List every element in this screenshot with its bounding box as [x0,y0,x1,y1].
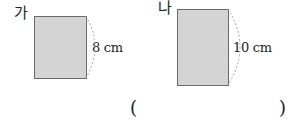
open-paren: ( [130,99,137,117]
dimension-arc-na [228,9,240,85]
dimension-arc-ga [86,16,95,78]
close-paren: ) [279,99,286,117]
dimension-arcs [0,0,291,124]
